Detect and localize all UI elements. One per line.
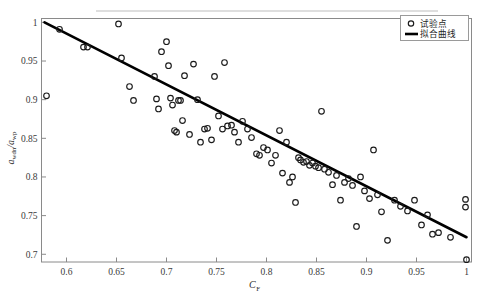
y-axis-tick-labels: 0.70.750.80.850.90.951	[21, 18, 38, 260]
data-point	[362, 188, 368, 194]
data-point	[290, 174, 296, 180]
data-point	[187, 132, 193, 138]
data-point	[116, 21, 122, 27]
data-point	[154, 96, 160, 102]
y-tick-label: 0.9	[26, 95, 38, 105]
data-point	[463, 204, 469, 210]
data-point	[44, 93, 50, 99]
y-axis-num-subscript: wdn	[10, 147, 17, 159]
svg-text:awdn/awp: awdn/awp	[5, 131, 17, 164]
chart-canvas: 0.60.650.70.750.80.850.90.951 0.70.750.8…	[0, 0, 485, 306]
data-point	[273, 153, 279, 159]
x-axis-title-base: C	[249, 279, 256, 290]
data-point	[385, 238, 391, 244]
legend-label-test-points: 试验点	[420, 18, 447, 29]
experimental-data-points	[44, 21, 470, 262]
data-point	[367, 196, 373, 202]
data-point	[338, 197, 344, 203]
data-point	[412, 197, 418, 203]
data-point	[232, 129, 238, 135]
data-point	[436, 230, 442, 236]
data-point	[216, 113, 222, 119]
data-point	[354, 224, 360, 230]
data-point	[249, 135, 255, 141]
data-point	[334, 173, 340, 179]
chart-legend[interactable]: 试验点 拟合曲线	[401, 16, 469, 41]
x-axis-title-subscript: F	[256, 285, 260, 292]
y-axis-ticks	[42, 22, 47, 254]
data-point	[209, 137, 215, 143]
data-point	[127, 84, 133, 90]
x-tick-label: 0.9	[361, 267, 373, 277]
data-point	[212, 74, 218, 80]
data-point	[326, 170, 332, 176]
data-point	[269, 160, 275, 166]
y-axis-den-subscript: wp	[10, 131, 17, 140]
data-point	[182, 73, 188, 79]
data-point	[350, 183, 356, 189]
x-tick-label: 1	[464, 267, 469, 277]
x-axis-title: CF	[249, 279, 260, 292]
data-point	[280, 170, 286, 176]
data-point	[379, 209, 385, 215]
scatter-chart-figure: 0.60.650.70.750.80.850.90.951 0.70.750.8…	[0, 0, 485, 306]
data-point	[430, 231, 436, 237]
data-point	[448, 234, 454, 240]
x-tick-label: 0.95	[408, 267, 425, 277]
data-point	[419, 222, 425, 228]
data-point	[198, 139, 204, 145]
data-point	[170, 102, 176, 108]
x-tick-label: 0.65	[108, 267, 125, 277]
y-axis-title: awdn/awp	[5, 131, 17, 164]
x-tick-label: 0.7	[161, 267, 173, 277]
data-point	[156, 106, 162, 112]
y-tick-label: 0.75	[21, 211, 38, 221]
data-point	[293, 200, 299, 206]
data-point	[236, 139, 242, 145]
y-tick-label: 0.95	[21, 56, 38, 66]
data-point	[180, 118, 186, 124]
data-point	[330, 182, 336, 188]
data-point	[405, 208, 411, 214]
data-point	[159, 49, 165, 55]
data-point	[131, 98, 137, 104]
data-point	[287, 180, 293, 186]
data-point	[119, 55, 125, 61]
data-point	[463, 197, 469, 203]
data-point	[166, 63, 172, 69]
x-tick-label: 0.75	[208, 267, 225, 277]
data-point	[168, 95, 174, 101]
data-point	[284, 139, 290, 145]
data-point	[319, 108, 325, 114]
data-point	[229, 122, 235, 128]
y-tick-label: 0.7	[26, 250, 38, 260]
legend-label-fitted-curve: 拟合曲线	[420, 28, 456, 39]
data-point	[222, 60, 228, 66]
y-tick-label: 1	[33, 18, 38, 28]
data-point	[191, 61, 197, 67]
y-tick-label: 0.85	[21, 134, 38, 144]
x-tick-label: 0.8	[261, 267, 273, 277]
x-tick-label: 0.85	[308, 267, 325, 277]
svg-text:CF: CF	[249, 279, 260, 292]
data-point	[358, 174, 364, 180]
data-point	[371, 147, 377, 153]
y-tick-label: 0.8	[26, 172, 38, 182]
x-axis-ticks	[67, 258, 467, 263]
data-point	[277, 128, 283, 134]
x-axis-tick-labels: 0.60.650.70.750.80.850.90.951	[61, 267, 470, 277]
data-point	[164, 39, 170, 45]
x-tick-label: 0.6	[61, 267, 73, 277]
